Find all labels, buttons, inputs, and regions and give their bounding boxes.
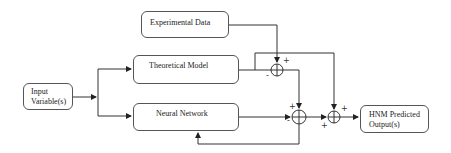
edge-tm-sum3 xyxy=(255,53,334,109)
sum1-minus-sign: - xyxy=(266,71,269,80)
sum2-plus-sign: + xyxy=(289,102,296,111)
theoretical-model-label: Theoretical Model xyxy=(149,61,208,71)
input-variables-box: Input Variable(s) xyxy=(23,83,73,110)
sum1-plus-sign: + xyxy=(283,56,290,65)
neural-network-label: Neural Network xyxy=(156,109,208,119)
sum3-plus-sign-bottom: + xyxy=(321,121,328,130)
sum3-plus-sign-top: + xyxy=(341,104,348,113)
experimental-data-box: Experimental Data xyxy=(141,11,229,38)
theoretical-model-box: Theoretical Model xyxy=(133,55,239,84)
output-label-line2: Output(s) xyxy=(369,120,400,130)
input-label-line2: Variable(s) xyxy=(31,97,66,107)
sum3-junction xyxy=(328,111,340,123)
sum2-minus-sign: - xyxy=(287,116,290,125)
sum2-junction xyxy=(292,110,306,124)
hnm-output-box: HNM Predicted Output(s) xyxy=(360,105,429,133)
input-label-line1: Input xyxy=(31,87,48,97)
output-label-line1: HNM Predicted xyxy=(369,110,420,120)
sum1-junction xyxy=(271,64,283,76)
neural-network-box: Neural Network xyxy=(133,103,239,131)
experimental-data-label: Experimental Data xyxy=(150,18,210,28)
